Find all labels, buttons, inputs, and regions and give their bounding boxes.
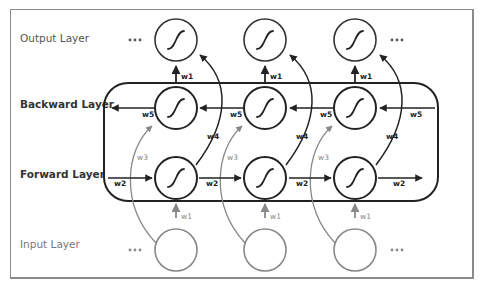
w5-label: w5: [320, 110, 332, 119]
input-node: [334, 229, 376, 271]
w1-label: w1: [181, 72, 193, 81]
w3-label: w3: [318, 153, 329, 162]
w1-label: w1: [360, 72, 372, 81]
w1-input-label: w1: [181, 212, 192, 221]
w1-input-arrows: [176, 204, 355, 218]
w1-label: w1: [270, 72, 282, 81]
w1-input-label: w1: [360, 212, 371, 221]
w5-label: w5: [142, 110, 154, 119]
w2-label: w2: [296, 179, 308, 188]
w2-label: w2: [206, 179, 218, 188]
w4-label: w4: [386, 132, 398, 141]
w3-label: w3: [137, 153, 148, 162]
w2-label: w2: [114, 179, 126, 188]
w4-label: w4: [296, 132, 308, 141]
w4-label: w4: [207, 132, 219, 141]
w1-output-arrows: [176, 66, 355, 84]
w1-input-label: w1: [270, 212, 281, 221]
input-node: [244, 229, 286, 271]
w3-label: w3: [227, 153, 238, 162]
bidirectional-rnn-diagram: w1 w1 w1 w5 w5 w5 w5 w4 w4 w4 w2 w2 w2 w…: [0, 0, 487, 290]
w5-label: w5: [230, 110, 242, 119]
input-nodes: [155, 229, 376, 271]
input-node: [155, 229, 197, 271]
w5-label: w5: [410, 110, 422, 119]
w2-label: w2: [393, 179, 405, 188]
